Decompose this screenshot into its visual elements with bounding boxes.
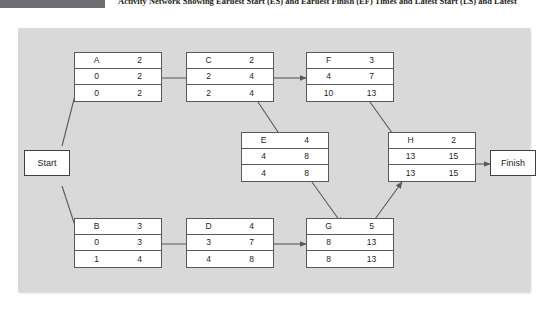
node-a-lf: 2 xyxy=(118,85,161,101)
node-g-es: 8 xyxy=(307,235,350,250)
node-c-es: 2 xyxy=(187,69,230,84)
node-g-duration: 5 xyxy=(350,219,393,234)
node-g-lf: 13 xyxy=(350,251,393,267)
node-b-lf: 4 xyxy=(118,251,161,267)
node-c-duration: 2 xyxy=(230,53,273,68)
node-d-duration: 4 xyxy=(230,219,273,234)
node-e-row-early: 4 8 xyxy=(242,149,328,165)
node-h-row-early: 13 15 xyxy=(389,149,475,165)
node-g-label: G xyxy=(307,219,350,234)
node-h-lf: 15 xyxy=(432,165,475,181)
node-c-label: C xyxy=(187,53,230,68)
node-a-ls: 0 xyxy=(75,85,118,101)
node-d-row-header: D 4 xyxy=(187,219,273,235)
node-f-row-late: 10 13 xyxy=(307,85,393,101)
node-b-row-header: B 3 xyxy=(75,219,161,235)
node-g[interactable]: G 5 8 13 8 13 xyxy=(306,218,394,268)
node-g-row-header: G 5 xyxy=(307,219,393,235)
node-h-es: 13 xyxy=(389,149,432,164)
node-e-duration: 4 xyxy=(285,133,328,148)
node-a[interactable]: A 2 0 2 0 2 xyxy=(74,52,162,102)
page-title: Activity Network Showing Earliest Start … xyxy=(118,0,518,6)
node-h[interactable]: H 2 13 15 13 15 xyxy=(388,132,476,182)
node-d-row-late: 4 8 xyxy=(187,251,273,267)
node-e-ef: 8 xyxy=(285,149,328,164)
node-d-lf: 8 xyxy=(230,251,273,267)
node-e-label: E xyxy=(242,133,285,148)
node-b-row-early: 0 3 xyxy=(75,235,161,251)
node-e-lf: 8 xyxy=(285,165,328,181)
node-h-ls: 13 xyxy=(389,165,432,181)
node-a-ef: 2 xyxy=(118,69,161,84)
node-b-es: 0 xyxy=(75,235,118,250)
node-d-es: 3 xyxy=(187,235,230,250)
node-b-ls: 1 xyxy=(75,251,118,267)
node-d-row-early: 3 7 xyxy=(187,235,273,251)
node-c-ls: 2 xyxy=(187,85,230,101)
node-f-duration: 3 xyxy=(350,53,393,68)
node-start[interactable]: Start xyxy=(24,150,70,176)
node-start-label: Start xyxy=(37,158,56,168)
node-c-row-early: 2 4 xyxy=(187,69,273,85)
header-accent-bar xyxy=(0,0,105,8)
node-b[interactable]: B 3 0 3 1 4 xyxy=(74,218,162,268)
node-f-row-header: F 3 xyxy=(307,53,393,69)
node-e-ls: 4 xyxy=(242,165,285,181)
node-a-label: A xyxy=(75,53,118,68)
node-e-row-header: E 4 xyxy=(242,133,328,149)
node-f-row-early: 4 7 xyxy=(307,69,393,85)
node-b-ef: 3 xyxy=(118,235,161,250)
node-b-row-late: 1 4 xyxy=(75,251,161,267)
node-c[interactable]: C 2 2 4 2 4 xyxy=(186,52,274,102)
node-h-duration: 2 xyxy=(432,133,475,148)
node-d-ls: 4 xyxy=(187,251,230,267)
node-g-ef: 13 xyxy=(350,235,393,250)
node-f[interactable]: F 3 4 7 10 13 xyxy=(306,52,394,102)
node-f-label: F xyxy=(307,53,350,68)
node-g-ls: 8 xyxy=(307,251,350,267)
activity-network-diagram: Start A 2 0 2 0 2 C 2 2 4 2 4 xyxy=(18,28,530,292)
node-h-row-header: H 2 xyxy=(389,133,475,149)
node-f-ls: 10 xyxy=(307,85,350,101)
node-d[interactable]: D 4 3 7 4 8 xyxy=(186,218,274,268)
node-e-es: 4 xyxy=(242,149,285,164)
node-c-ef: 4 xyxy=(230,69,273,84)
node-d-label: D xyxy=(187,219,230,234)
node-c-row-header: C 2 xyxy=(187,53,273,69)
node-f-lf: 13 xyxy=(350,85,393,101)
node-f-es: 4 xyxy=(307,69,350,84)
node-finish[interactable]: Finish xyxy=(490,150,536,176)
node-f-ef: 7 xyxy=(350,69,393,84)
header-strip: Activity Network Showing Earliest Start … xyxy=(0,0,541,12)
node-g-row-early: 8 13 xyxy=(307,235,393,251)
node-a-row-header: A 2 xyxy=(75,53,161,69)
node-d-ef: 7 xyxy=(230,235,273,250)
node-h-label: H xyxy=(389,133,432,148)
node-g-row-late: 8 13 xyxy=(307,251,393,267)
node-a-es: 0 xyxy=(75,69,118,84)
node-h-ef: 15 xyxy=(432,149,475,164)
node-a-duration: 2 xyxy=(118,53,161,68)
node-c-row-late: 2 4 xyxy=(187,85,273,101)
node-c-lf: 4 xyxy=(230,85,273,101)
node-a-row-early: 0 2 xyxy=(75,69,161,85)
node-finish-label: Finish xyxy=(501,158,525,168)
node-e-row-late: 4 8 xyxy=(242,165,328,181)
node-h-row-late: 13 15 xyxy=(389,165,475,181)
node-b-label: B xyxy=(75,219,118,234)
node-a-row-late: 0 2 xyxy=(75,85,161,101)
node-e[interactable]: E 4 4 8 4 8 xyxy=(241,132,329,182)
node-b-duration: 3 xyxy=(118,219,161,234)
